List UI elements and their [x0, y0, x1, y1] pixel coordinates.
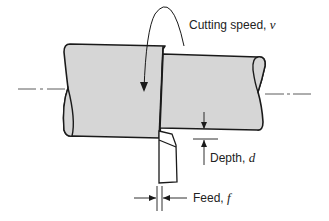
workpiece-cut-section — [160, 54, 265, 130]
depth-var: d — [249, 150, 256, 165]
feed-text: Feed, — [193, 191, 227, 205]
cutting-speed-text: Cutting speed, — [189, 18, 270, 32]
workpiece-uncut-section — [64, 44, 166, 138]
cutting-speed-var: v — [270, 17, 276, 32]
depth-label: Depth, d — [210, 151, 255, 165]
feed-label: Feed, f — [193, 191, 231, 205]
cutting-tool — [159, 131, 177, 183]
cutting-speed-label: Cutting speed, v — [189, 18, 276, 32]
feed-var: f — [227, 190, 231, 205]
turning-diagram — [0, 0, 329, 221]
depth-text: Depth, — [210, 151, 249, 165]
feed-dimension — [134, 186, 187, 211]
